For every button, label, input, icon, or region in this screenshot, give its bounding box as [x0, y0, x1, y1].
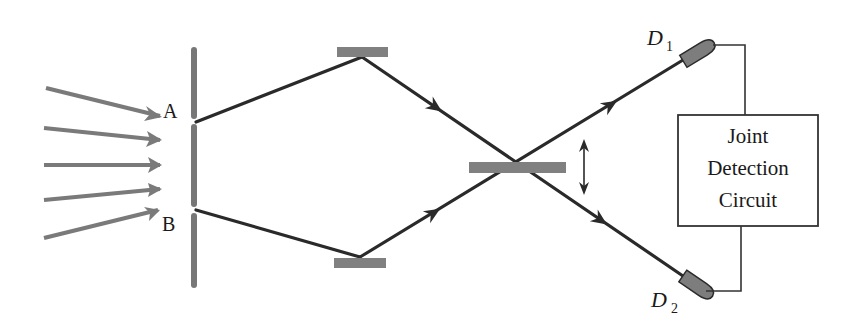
slit-a-label: A — [163, 100, 178, 122]
beam-paths — [196, 57, 683, 276]
detector-d2-label: D — [650, 287, 667, 312]
diagram-canvas: A B — [0, 0, 858, 330]
detector-d2 — [679, 270, 717, 302]
top-mirror — [337, 47, 388, 57]
detector-d1-label: D — [646, 25, 663, 50]
detector-d2-subscript: 2 — [671, 301, 678, 316]
diagram-svg: A B — [0, 0, 858, 330]
joint-detection-circuit: Joint Detection Circuit — [678, 115, 818, 226]
detector-d1 — [680, 37, 718, 68]
bottom-mirror — [334, 258, 386, 268]
beam-splitter — [469, 162, 566, 173]
movement-double-arrow — [579, 139, 589, 195]
circuit-line-2: Detection — [707, 156, 789, 180]
incident-light-arrows — [44, 88, 160, 238]
slit-b-label: B — [162, 213, 175, 235]
circuit-line-1: Joint — [728, 124, 769, 148]
circuit-line-3: Circuit — [719, 188, 777, 212]
detector-d1-subscript: 1 — [666, 39, 673, 54]
